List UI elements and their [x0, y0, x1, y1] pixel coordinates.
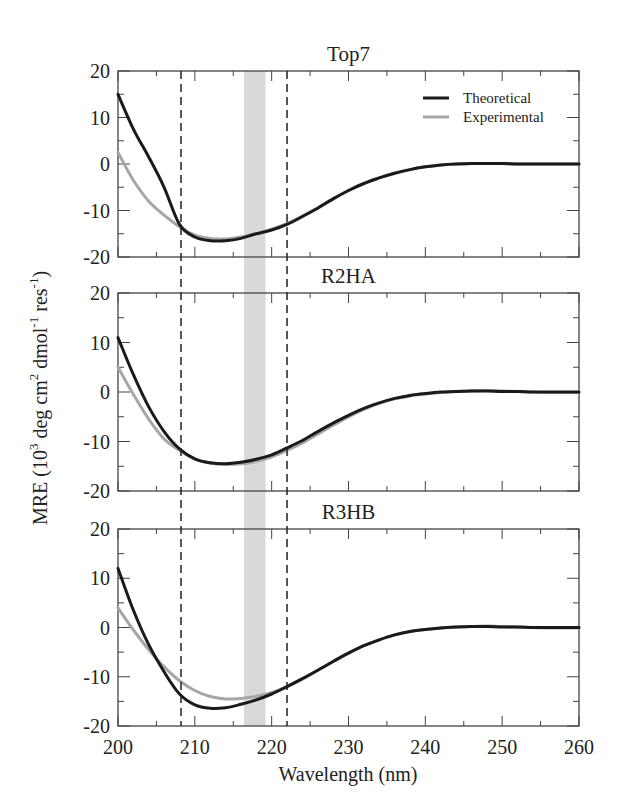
y-tick-label: 20 — [90, 518, 110, 540]
y-axis-title: MRE (103 deg cm2 dmol-1 res-1) — [26, 271, 52, 525]
y-tick-label: 10 — [90, 107, 110, 129]
series-theoretical — [118, 338, 579, 464]
y-tick-label: -10 — [83, 200, 110, 222]
panel-top7: Top720100-10-20TheoreticalExperimental — [83, 42, 579, 268]
ylabel-unit-res: res — [29, 288, 51, 317]
y-tick-label: 0 — [100, 381, 110, 403]
ylabel-unit-deg-cm: deg cm — [29, 380, 52, 444]
y-tick-label: 20 — [90, 282, 110, 304]
ylabel-sup: -1 — [26, 278, 41, 289]
y-tick-label: 0 — [100, 617, 110, 639]
y-tick-label: -20 — [83, 715, 110, 737]
y-tick-label: 0 — [100, 153, 110, 175]
y-tick-label: 20 — [90, 60, 110, 82]
ylabel-close: ) — [29, 271, 52, 278]
legend: TheoreticalExperimental — [423, 90, 544, 125]
ylabel-sup: -1 — [26, 317, 41, 328]
panel-title: Top7 — [327, 42, 370, 66]
dashed-reference-lines — [181, 71, 287, 726]
y-tick-label: 10 — [90, 567, 110, 589]
x-axis-tick-labels: 200210220230240250260 — [103, 736, 594, 758]
y-tick-label: -20 — [83, 246, 110, 268]
y-tick-label: 10 — [90, 332, 110, 354]
series-experimental — [118, 152, 579, 239]
y-tick-label: -10 — [83, 431, 110, 453]
legend-label-theoretical: Theoretical — [463, 90, 531, 106]
y-tick-label: -10 — [83, 666, 110, 688]
x-tick-label: 250 — [487, 736, 517, 758]
shaded-band-gap — [244, 257, 266, 293]
shaded-band-gap — [244, 491, 266, 529]
ylabel-unit-dmol: dmol — [29, 327, 51, 374]
ylabel-main: MRE (10 — [29, 450, 52, 525]
cd-spectra-figure: Top720100-10-20TheoreticalExperimentalR2… — [0, 0, 618, 805]
panel-title: R2HA — [321, 264, 377, 288]
panel-title: R3HB — [322, 500, 376, 524]
x-tick-label: 260 — [564, 736, 594, 758]
legend-label-experimental: Experimental — [463, 109, 544, 125]
x-axis-title: Wavelength (nm) — [279, 763, 418, 786]
panel-r3hb: R3HB20100-10-20 — [83, 500, 579, 737]
x-tick-label: 200 — [103, 736, 133, 758]
x-tick-label: 240 — [410, 736, 440, 758]
panel-r2ha: R2HA20100-10-20 — [83, 264, 579, 502]
shaded-band — [244, 71, 266, 257]
x-tick-label: 220 — [257, 736, 287, 758]
y-tick-label: -20 — [83, 480, 110, 502]
x-tick-label: 230 — [334, 736, 364, 758]
panels-container: Top720100-10-20TheoreticalExperimentalR2… — [83, 42, 579, 737]
x-tick-label: 210 — [180, 736, 210, 758]
